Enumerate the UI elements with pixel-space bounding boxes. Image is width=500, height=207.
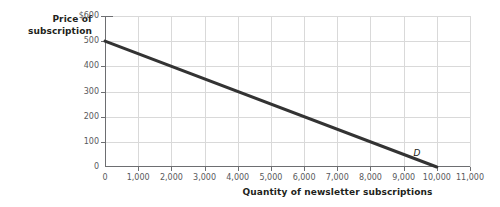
x-axis-title: Quantity of newsletter subscriptions — [180, 187, 495, 197]
demand-curve-label: D — [414, 148, 421, 158]
horizontal-gridlines — [105, 17, 470, 143]
demand-curve-figure: Price of subscription $60050040030020010… — [0, 0, 500, 207]
x-tick-label: 11,000 — [447, 174, 493, 182]
y-tick-label: 0 — [57, 163, 99, 171]
plot-area — [105, 16, 470, 167]
y-tick-label: 300 — [57, 88, 99, 96]
demand-curve-line — [105, 41, 437, 167]
y-tick-label: 100 — [57, 138, 99, 146]
y-axis-title-line-2: subscription — [6, 26, 92, 38]
y-tick-label: 400 — [57, 62, 99, 70]
y-tick-label: 500 — [57, 37, 99, 45]
y-tick-label: $600 — [57, 12, 99, 20]
y-tick-label: 200 — [57, 113, 99, 121]
vertical-gridlines — [139, 16, 471, 167]
